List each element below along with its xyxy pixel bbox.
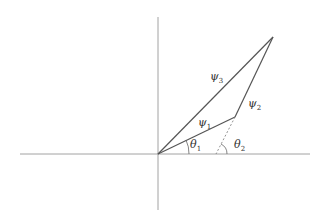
vector-psi3 bbox=[158, 37, 273, 154]
theta2-arc bbox=[221, 144, 227, 154]
theta1-arc bbox=[186, 140, 189, 154]
label-psi1: ψ1 bbox=[198, 116, 211, 131]
label-psi3: ψ3 bbox=[210, 70, 223, 85]
label-theta2: θ2 bbox=[234, 138, 245, 153]
vector-diagram: ψ3 ψ2 ψ1 θ1 θ2 bbox=[0, 0, 324, 222]
label-psi2: ψ2 bbox=[248, 97, 261, 112]
label-theta1: θ1 bbox=[190, 138, 201, 153]
